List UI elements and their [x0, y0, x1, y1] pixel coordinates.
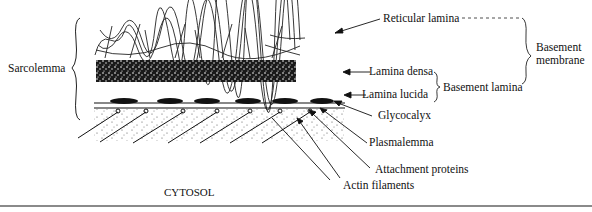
plasmalemma-layer	[94, 103, 345, 108]
sarcolemma-label: Sarcolemma	[8, 62, 65, 74]
glycocalyx-label: Glycocalyx	[378, 109, 431, 122]
actin-filaments-label: Actin filaments	[343, 179, 415, 191]
attachment-proteins-label: Attachment proteins	[375, 163, 469, 176]
reticular-lamina-layer	[95, 0, 305, 113]
reticular-lamina-label: Reticular lamina	[383, 12, 459, 24]
plasmalemma-label: Plasmalemma	[369, 136, 434, 148]
lamina-densa-label: Lamina densa	[369, 65, 433, 77]
sarcolemma-diagram: Sarcolemma	[0, 0, 592, 212]
sarcolemma-brace	[72, 18, 80, 120]
bottom-divider	[0, 205, 592, 207]
basement-membrane-label-line1: Basement	[536, 41, 582, 53]
lamina-lucida-label: Lamina lucida	[362, 88, 428, 100]
lamina-densa-layer	[96, 60, 296, 82]
basement-membrane-brace	[522, 18, 531, 84]
basement-membrane-label-line2: membrane	[536, 54, 585, 66]
basement-lamina-label: Basement lamina	[443, 81, 523, 93]
basement-lamina-brace	[434, 72, 440, 102]
cytosol-label: CYTOSOL	[164, 186, 215, 198]
